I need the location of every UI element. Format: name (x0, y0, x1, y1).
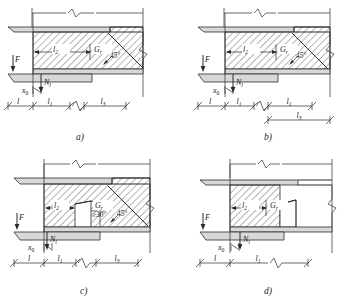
lower-slab (8, 69, 143, 82)
angle-annotation-min30: ≥30° (91, 210, 106, 219)
svg-text:l1: l1 (57, 254, 62, 264)
dim-l3-sub: 3 (116, 258, 120, 264)
dim-l3-sub: 3 (102, 101, 106, 107)
hatched-dispersion-zone (33, 27, 143, 69)
svg-text:l1: l1 (47, 97, 52, 107)
lower-slab (14, 227, 150, 240)
svg-text:l3: l3 (100, 97, 105, 107)
column-break-line (328, 185, 336, 227)
force-f-arrow: F (201, 55, 210, 72)
lower-slab (200, 227, 332, 240)
angle-45-label: 45° (110, 51, 120, 60)
svg-text:x0: x0 (21, 86, 29, 96)
bottom-dimension-chain: l l1 l3 (10, 254, 142, 268)
angle-45-label: 45° (296, 51, 306, 60)
panel-c: F Nl x0 l2 Gr ≥30° (0, 151, 179, 302)
svg-text:l3: l3 (114, 254, 119, 264)
dim-l3-sub: 3 (298, 115, 302, 121)
bottom-dimension-chain-row1: l l1 l1 (194, 97, 316, 111)
offset-sub: 0 (32, 247, 35, 253)
dim-l1a-sub: 1 (239, 101, 242, 107)
offset-x0: x0 (21, 86, 41, 96)
offset-x0: x0 (217, 243, 239, 253)
panel-b-caption: b) (264, 132, 272, 143)
upper-slab (200, 180, 332, 185)
dim-l-label: l (28, 254, 31, 263)
bottom-dimension-chain: l l1 l3 (4, 97, 130, 111)
panel-b: F Nl x0 l2 Gr (180, 0, 359, 151)
lower-slab (198, 69, 330, 82)
panel-d-caption: d) (264, 286, 272, 297)
svg-text:l3: l3 (296, 111, 301, 121)
bottom-dimension-chain-row2: l3 (264, 111, 334, 124)
force-f-arrow: F (15, 213, 24, 230)
zone-l2-sub: 2 (245, 49, 248, 55)
svg-text:x0: x0 (217, 243, 225, 253)
offset-sub: 0 (26, 90, 29, 96)
dim-l-label: l (17, 97, 20, 106)
offset-x0: x0 (212, 86, 233, 96)
local-force-sub: l (49, 82, 51, 88)
dim-l1b-sub: 1 (289, 101, 292, 107)
svg-text:l1: l1 (286, 97, 291, 107)
panel-c-caption: c) (80, 286, 87, 297)
force-f-arrow: F (201, 213, 210, 230)
svg-text:l: l (214, 254, 217, 263)
panel-a: F Nl x0 l2 Gr (0, 0, 179, 151)
dim-l1-sub: 1 (258, 258, 261, 264)
bottom-dimension-chain: l l1 (196, 254, 312, 268)
angle-min30-label: ≥30° (92, 210, 106, 219)
figure-sheet: F Nl x0 l2 Gr (0, 0, 359, 302)
dim-l-label: l (209, 97, 212, 106)
force-f-arrow: F (11, 55, 20, 72)
force-f-label: F (18, 213, 24, 222)
svg-text:x0: x0 (212, 86, 220, 96)
dim-l1-sub: 1 (60, 258, 63, 264)
force-f-label: F (204, 213, 210, 222)
force-f-label: F (14, 55, 20, 64)
force-f-label: F (204, 55, 210, 64)
svg-text:l: l (209, 97, 212, 106)
svg-text:l: l (28, 254, 31, 263)
zone-l2-sub: 2 (55, 49, 58, 55)
svg-text:l1: l1 (236, 97, 241, 107)
zone-l2-sub: 2 (56, 205, 59, 211)
local-force-sub: l (241, 82, 243, 88)
panel-a-caption: a) (76, 132, 84, 143)
svg-text:l1: l1 (255, 254, 260, 264)
dim-l1-sub: 1 (50, 101, 53, 107)
zone-l2-sub: 2 (244, 205, 247, 211)
offset-sub: 0 (222, 247, 225, 253)
svg-text:x0: x0 (27, 243, 35, 253)
angle-45-label: 45° (117, 209, 127, 218)
hatched-dispersion-zone (225, 27, 330, 69)
dim-l-label: l (214, 254, 217, 263)
svg-text:l: l (17, 97, 20, 106)
offset-sub: 0 (217, 90, 220, 96)
panel-d: F Nl x0 l2 Gr (180, 151, 359, 302)
